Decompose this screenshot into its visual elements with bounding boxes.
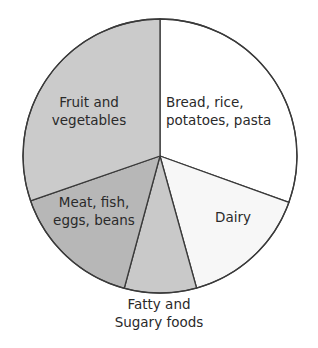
- pie-slices: [23, 19, 297, 293]
- slice-label: Fatty andSugary foods: [115, 296, 204, 330]
- slice-label: Dairy: [215, 209, 251, 225]
- pie-chart: Bread, rice,potatoes, pastaDairyFatty an…: [0, 0, 318, 348]
